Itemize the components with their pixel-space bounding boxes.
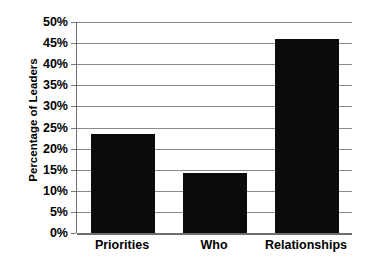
y-axis-tick-mark bbox=[71, 106, 76, 107]
y-axis-tick-mark bbox=[71, 128, 76, 129]
y-axis-tick-label: 35% bbox=[28, 78, 68, 92]
axis-baseline bbox=[77, 233, 352, 235]
plot-area bbox=[76, 22, 352, 233]
y-axis-tick-label: 20% bbox=[28, 142, 68, 156]
x-axis-tick-label: Relationships bbox=[265, 238, 347, 252]
y-axis-tick-label: 10% bbox=[28, 184, 68, 198]
y-axis-tick-label: 25% bbox=[28, 121, 68, 135]
y-axis-tick-mark bbox=[71, 233, 76, 234]
x-axis-tick-label: Priorities bbox=[95, 238, 149, 252]
y-axis-tick-mark bbox=[71, 149, 76, 150]
x-axis-tick-labels: PrioritiesWhoRelationships bbox=[76, 238, 352, 260]
y-axis-tick-mark bbox=[71, 170, 76, 171]
bar-chart: Percentage of Leaders 0%5%10%15%20%25%30… bbox=[0, 0, 371, 268]
y-axis-tick-mark bbox=[71, 64, 76, 65]
gridline bbox=[77, 22, 352, 23]
y-axis-tick-labels: 0%5%10%15%20%25%30%35%40%45%50% bbox=[28, 0, 68, 268]
y-axis-tick-mark bbox=[71, 212, 76, 213]
bar bbox=[91, 134, 155, 233]
y-axis-tick-label: 40% bbox=[28, 57, 68, 71]
y-axis-tick-label: 50% bbox=[28, 15, 68, 29]
y-axis-tick-mark bbox=[71, 191, 76, 192]
y-axis-tick-mark bbox=[71, 43, 76, 44]
bar bbox=[275, 39, 339, 233]
bar bbox=[183, 173, 247, 233]
x-axis-tick-label: Who bbox=[200, 238, 227, 252]
y-axis-tick-mark bbox=[71, 22, 76, 23]
y-axis-tick-mark bbox=[71, 85, 76, 86]
y-axis-tick-label: 30% bbox=[28, 99, 68, 113]
y-axis-tick-label: 45% bbox=[28, 36, 68, 50]
y-axis-tick-label: 15% bbox=[28, 163, 68, 177]
y-axis-tick-label: 0% bbox=[28, 226, 68, 240]
y-axis-tick-label: 5% bbox=[28, 205, 68, 219]
